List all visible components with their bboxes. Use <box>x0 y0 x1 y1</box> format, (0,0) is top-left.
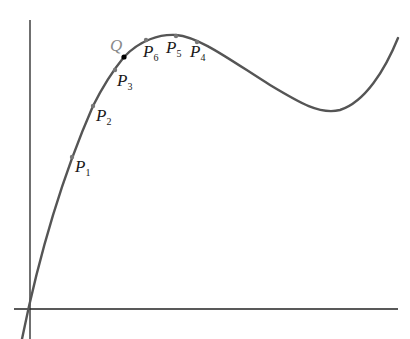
point-p2-label: P2 <box>95 106 111 127</box>
point-q-marker <box>121 54 126 59</box>
point-p5-subscript: 5 <box>176 48 181 59</box>
point-p5-label: P5 <box>165 38 181 59</box>
point-p1-subscript: 1 <box>85 167 90 178</box>
function-diagram: P1P2P3P6P5P4 Q <box>0 0 410 339</box>
point-p1-label: P1 <box>74 157 90 178</box>
point-p4-subscript: 4 <box>200 52 205 63</box>
point-p1-marker <box>70 155 74 159</box>
point-p6-label: P6 <box>142 42 158 63</box>
point-p2-subscript: 2 <box>106 116 111 127</box>
sample-points: P1P2P3P6P5P4 <box>70 34 206 178</box>
point-p3-subscript: 3 <box>127 81 132 92</box>
point-q: Q <box>110 36 127 60</box>
point-q-label: Q <box>110 36 122 55</box>
point-p3-label: P3 <box>116 71 132 92</box>
point-p2-marker <box>91 104 95 108</box>
point-p6-subscript: 6 <box>153 52 158 63</box>
function-curve <box>22 35 398 339</box>
point-p4-label: P4 <box>189 42 205 63</box>
